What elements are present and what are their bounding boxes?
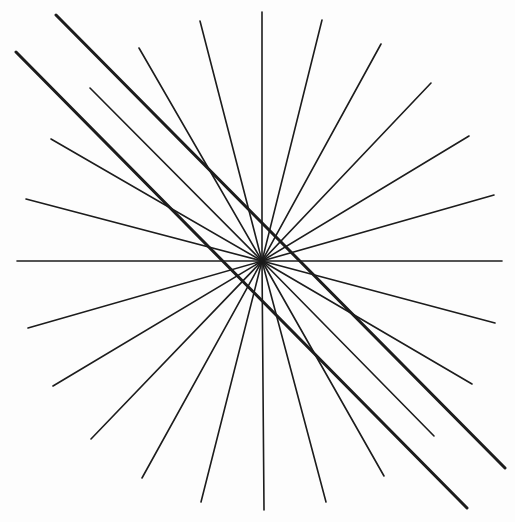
illusion-svg	[0, 0, 515, 522]
parallel-line-1	[56, 15, 505, 468]
ray-line	[53, 261, 262, 386]
ray-line	[28, 261, 262, 328]
ray-line	[262, 261, 264, 510]
ray-line	[262, 261, 495, 323]
ray-line	[262, 261, 434, 436]
ray-line	[262, 261, 472, 384]
ray-line	[262, 20, 322, 261]
radiating-rays	[17, 12, 502, 510]
ray-line	[262, 136, 469, 261]
ray-line	[90, 88, 262, 261]
ray-line	[262, 44, 381, 261]
ray-line	[262, 261, 326, 502]
ray-line	[91, 261, 262, 439]
ray-line	[200, 21, 262, 261]
ray-line	[262, 195, 494, 261]
ray-line	[262, 261, 384, 476]
ray-line	[201, 261, 262, 502]
ray-line	[142, 261, 262, 478]
ray-line	[51, 139, 262, 261]
ray-line	[262, 83, 431, 261]
ray-line	[139, 48, 262, 261]
illusion-figure	[0, 0, 515, 522]
ray-line	[26, 199, 262, 261]
parallel-line-2	[16, 52, 467, 508]
